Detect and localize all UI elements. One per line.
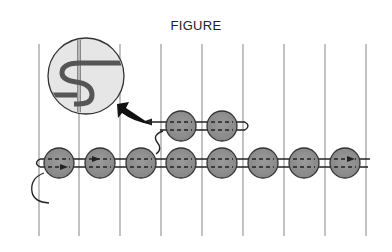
pointer-arrow-icon — [117, 102, 150, 124]
beadwork-diagram — [0, 0, 392, 252]
bead — [207, 111, 237, 141]
bead — [207, 148, 237, 178]
bead — [126, 148, 156, 178]
bead — [85, 148, 115, 178]
bead — [330, 148, 360, 178]
bead — [289, 148, 319, 178]
inset-magnifier — [40, 36, 125, 116]
bead — [248, 148, 278, 178]
bead — [166, 111, 196, 141]
bead — [166, 148, 196, 178]
bead — [44, 148, 74, 178]
thread-tail — [32, 173, 49, 203]
